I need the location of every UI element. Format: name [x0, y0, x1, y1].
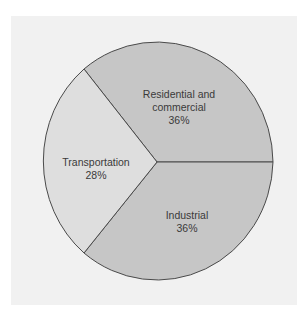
value-industrial: 36%: [176, 222, 197, 234]
pie-chart: Residential and commercial 36% Transport…: [0, 0, 307, 316]
label-residential-line1: Residential and: [143, 88, 216, 100]
label-industrial: Industrial: [166, 209, 209, 221]
label-transportation: Transportation: [62, 156, 129, 168]
value-transportation: 28%: [85, 169, 106, 181]
value-residential: 36%: [168, 114, 189, 126]
label-residential-line2: commercial: [152, 101, 206, 113]
